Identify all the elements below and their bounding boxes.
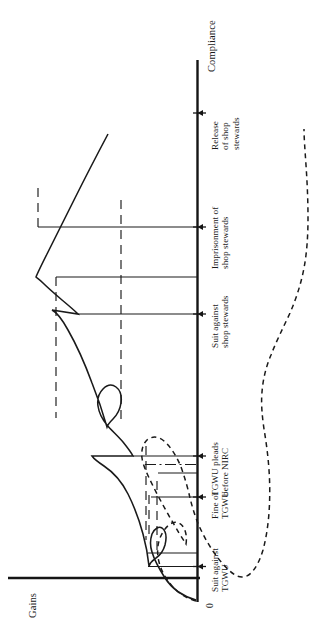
gains-dashed-curve — [142, 129, 308, 601]
event-label-imprisonment-shop-stewards: Imprisonment of shop stewards — [210, 207, 231, 269]
chart-figure: Gains Compliance 0 Suit against TGWU Fin… — [0, 0, 312, 638]
chart-canvas — [0, 0, 312, 638]
event-label-tgwu-pleads-nirc: TGWU pleads before NIRC — [210, 442, 231, 496]
gains-axis-label: Gains — [27, 593, 39, 618]
level-tie-lines — [38, 227, 197, 567]
gains-solid-curve — [36, 134, 196, 600]
event-tick-marks — [193, 113, 206, 567]
event-label-suit-against-shop-stewards: Suit against shop stewards — [210, 296, 231, 348]
origin-zero-label: 0 — [205, 603, 216, 608]
compliance-axis-label: Compliance — [206, 20, 218, 72]
event-label-release-shop-stewards: Release of shop stewards — [210, 117, 241, 150]
peak-dropline-guides — [38, 186, 157, 550]
event-label-suit-against-tgwu: Suit against TGWU — [210, 548, 231, 592]
